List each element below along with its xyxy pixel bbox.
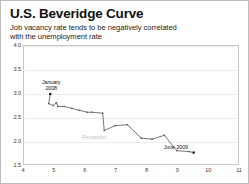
chart-card: U.S. Beveridge Curve Job vacancy rate te…: [0, 0, 249, 184]
x-axis-tick-5: 5: [47, 167, 61, 173]
data-point-11: [104, 130, 105, 131]
x-axis-tick-6: 6: [78, 167, 92, 173]
annotation-january-2008-line1: January: [42, 79, 60, 85]
annotation-june-2009: June 2009: [164, 144, 188, 150]
data-point-6: [71, 108, 72, 109]
data-point-2: [53, 105, 54, 106]
x-axis-tick-7: 7: [109, 167, 123, 173]
x-axis-tick-11: 11: [232, 167, 246, 173]
subtitle-line-2: with the unemployment rate: [10, 32, 242, 41]
subtitle-line-1: Job vacancy rate tends to be negatively …: [10, 23, 242, 32]
data-point-18: [188, 151, 189, 152]
data-point-17: [176, 150, 177, 151]
data-point-8: [87, 112, 88, 113]
plot-area: January 2008 Recession June 2009: [23, 45, 239, 165]
data-point-13: [127, 124, 128, 125]
y-axis-tick-3.0: 3.0: [3, 90, 21, 96]
data-point-9: [91, 112, 92, 113]
y-axis-tick-3.5: 3.5: [3, 66, 21, 72]
data-series-svg: [24, 46, 240, 166]
annotation-january-2008: January 2008: [34, 79, 68, 91]
data-point-7: [79, 110, 80, 111]
data-point-1: [48, 103, 49, 104]
data-point-3: [56, 102, 57, 103]
x-axis-labels: 4567891011: [23, 167, 239, 179]
data-point-14: [141, 137, 142, 138]
data-point-19: [193, 151, 195, 153]
y-axis-tick-2.0: 2.0: [3, 138, 21, 144]
y-axis-tick-4.0: 4.0: [3, 42, 21, 48]
x-axis-tick-4: 4: [16, 167, 30, 173]
page-title: U.S. Beveridge Curve: [10, 6, 242, 21]
chart-header: U.S. Beveridge Curve Job vacancy rate te…: [10, 6, 242, 41]
x-axis-tick-9: 9: [170, 167, 184, 173]
annotation-january-2008-line2: 2008: [45, 85, 57, 91]
data-point-12: [114, 125, 115, 126]
data-point-16: [164, 135, 165, 136]
x-axis-tick-10: 10: [201, 167, 215, 173]
data-point-5: [63, 106, 64, 107]
x-axis-tick-8: 8: [139, 167, 153, 173]
y-axis-labels: 4.03.53.02.52.01.5: [1, 45, 21, 165]
data-point-4: [57, 106, 58, 107]
data-point-10: [102, 113, 103, 114]
data-point-15: [151, 138, 152, 139]
annotation-recession: Recession: [82, 134, 106, 140]
y-axis-tick-2.5: 2.5: [3, 114, 21, 120]
data-point-0: [49, 93, 51, 95]
